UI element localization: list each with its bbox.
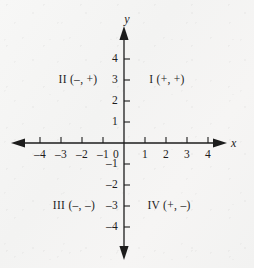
x-tick-label-neg4: –4	[34, 149, 46, 161]
y-tick-label-neg1: –1	[106, 158, 118, 170]
y-tick-label-neg4: –4	[106, 221, 118, 233]
quadrant-2-label: II (–, +)	[59, 74, 98, 86]
y-axis-bottom-arrowhead	[119, 246, 128, 260]
x-tick-label-1: 1	[142, 149, 148, 161]
quadrant-4-label: IV (+, –)	[147, 200, 190, 212]
y-tick-label-3: 3	[112, 74, 118, 86]
coordinate-plane-figure: x y 0 –4 –3 –2 –1 1 2 3 4 4 3 2 1 –1 –2 …	[0, 0, 254, 268]
x-tick-label-4: 4	[205, 149, 211, 161]
y-tick-label-2: 2	[112, 95, 118, 107]
quadrant-1-label: I (+, +)	[149, 74, 185, 86]
x-tick-label-2: 2	[163, 149, 169, 161]
x-axis-left-arrowhead	[11, 138, 25, 147]
axes-graphic	[0, 0, 254, 268]
y-tick-label-1: 1	[112, 116, 118, 128]
x-axis-right-arrowhead	[213, 138, 227, 147]
y-tick-label-neg2: –2	[106, 179, 118, 191]
x-tick-label-3: 3	[184, 149, 190, 161]
x-tick-label-neg3: –3	[55, 149, 67, 161]
x-axis-label: x	[231, 137, 236, 149]
y-axis-label: y	[124, 13, 129, 25]
quadrant-3-label: III (–, –)	[53, 200, 95, 212]
y-tick-label-neg3: –3	[106, 200, 118, 212]
y-tick-label-4: 4	[112, 53, 118, 65]
y-axis-top-arrowhead	[119, 26, 128, 40]
x-tick-label-neg2: –2	[76, 149, 88, 161]
